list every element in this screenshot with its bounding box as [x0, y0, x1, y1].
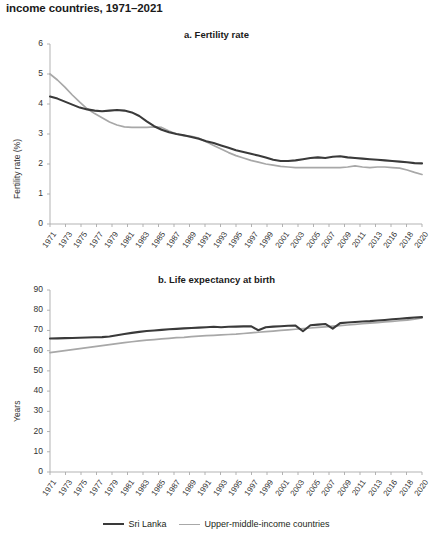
y-axis-tick-label: 10 [21, 446, 43, 456]
y-axis-tick-label: 60 [21, 345, 43, 355]
y-axis-tick-label: 5 [21, 68, 43, 78]
legend-item-upper-middle-income: Upper-middle-income countries [179, 519, 329, 529]
figure-title: income countries, 1971–2021 [6, 2, 162, 14]
chart-axis-lines [50, 290, 422, 472]
legend-item-sri-lanka: Sri Lanka [103, 519, 166, 529]
legend-label-upper-middle-income: Upper-middle-income countries [204, 519, 329, 529]
y-axis-tick-label: 90 [21, 284, 43, 294]
y-axis-tick-label: 6 [21, 38, 43, 48]
y-axis-tick-label: 40 [21, 385, 43, 395]
legend-swatch-sri-lanka [103, 523, 124, 525]
y-axis-tick-label: 4 [21, 98, 43, 108]
y-axis-tick-label: 2 [21, 158, 43, 168]
chart-panel-life-expectancy: b. Life expectancy at birth Years 010203… [0, 272, 433, 522]
chart-a-plot-area: 0123456197119731975197719791981198319851… [0, 24, 433, 274]
data-line-sri-lanka [50, 97, 422, 164]
y-axis-tick-label: 80 [21, 304, 43, 314]
y-axis-tick-label: 0 [21, 466, 43, 476]
chart-b-plot-area: 0102030405060708090197119731975197719791… [0, 272, 433, 522]
y-axis-tick-label: 0 [21, 218, 43, 228]
y-axis-tick-label: 3 [21, 128, 43, 138]
y-axis-tick-label: 50 [21, 365, 43, 375]
legend-swatch-upper-middle-income [179, 524, 200, 525]
y-axis-tick-label: 30 [21, 405, 43, 415]
data-line-upper-middle-income-countries [50, 318, 422, 353]
legend-label-sri-lanka: Sri Lanka [128, 519, 166, 529]
chart-legend: Sri Lanka Upper-middle-income countries [0, 519, 433, 529]
chart-axis-lines [50, 44, 422, 224]
y-axis-tick-label: 1 [21, 188, 43, 198]
chart-panel-fertility-rate: a. Fertility rate Fertility rate (%) 012… [0, 24, 433, 274]
data-line-sri-lanka [50, 317, 422, 338]
y-axis-tick-label: 20 [21, 426, 43, 436]
y-axis-tick-label: 70 [21, 324, 43, 334]
